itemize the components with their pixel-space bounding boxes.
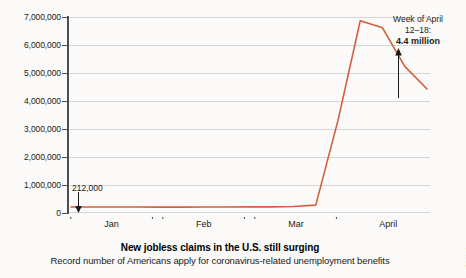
y-axis-tick-label: 4,000,000 (1, 97, 61, 106)
month-group-feb: Feb (162, 215, 245, 235)
y-axis-tick-label: 5,000,000 (1, 69, 61, 78)
y-axis-tick-label: 3,000,000 (1, 125, 61, 134)
y-axis-tick-mark (62, 157, 68, 159)
y-axis-tick-mark (62, 129, 68, 131)
y-axis-tick-mark (62, 185, 68, 187)
month-group-mar: Mar (254, 215, 337, 235)
annotation-end-line1: Week of April (372, 14, 464, 25)
month-group-april: April (347, 215, 430, 235)
y-axis-tick-label: 0 (1, 209, 61, 218)
y-axis-tick-label: 7,000,000 (1, 13, 61, 22)
month-label: Mar (254, 219, 337, 229)
jobless-claims-chart: 7,000,0006,000,0005,000,0004,000,0003,00… (0, 0, 466, 278)
y-axis-tick-mark (62, 101, 68, 103)
y-axis-tick-label: 1,000,000 (1, 181, 61, 190)
annotation-end-line2: 12–18: (372, 25, 464, 36)
annotation-end-line3: 4.4 million (372, 36, 464, 47)
y-axis-tick-label: 6,000,000 (1, 41, 61, 50)
y-axis-tick-mark (62, 73, 68, 75)
annotation-end-label: Week of April 12–18: 4.4 million (372, 14, 464, 47)
annotation-start-arrow-icon (74, 192, 83, 214)
annotation-end-arrow-icon (394, 48, 403, 98)
month-label: Jan (70, 219, 153, 229)
y-axis-tick-label: 2,000,000 (1, 153, 61, 162)
chart-subtitle: Record number of Americans apply for cor… (0, 254, 440, 267)
month-label: April (347, 219, 430, 229)
y-axis-tick-mark (62, 17, 68, 19)
y-axis-tick-mark (62, 45, 68, 47)
y-axis-tick-mark (62, 213, 68, 215)
month-group-jan: Jan (70, 215, 153, 235)
caption-block: New jobless claims in the U.S. still sur… (0, 241, 440, 267)
month-label: Feb (162, 219, 245, 229)
y-axis-labels: 7,000,0006,000,0005,000,0004,000,0003,00… (0, 17, 61, 213)
chart-title: New jobless claims in the U.S. still sur… (0, 241, 440, 254)
x-axis-months: JanFebMarApril (68, 215, 430, 237)
